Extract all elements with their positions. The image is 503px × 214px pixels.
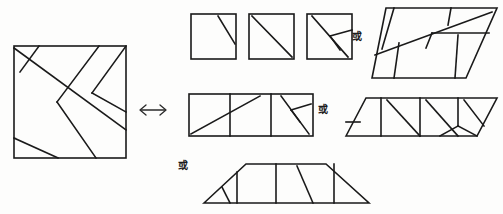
small-square-1 <box>191 14 236 59</box>
or-label-top: 或 <box>352 32 362 42</box>
dissected-square <box>14 46 126 158</box>
dissected-trapezoid <box>204 164 369 203</box>
equivalence-arrow-icon <box>140 105 166 115</box>
small-square-3 <box>307 14 352 59</box>
dissected-slanted-band <box>346 98 497 136</box>
or-label-bottom: 或 <box>178 161 188 171</box>
diagram-canvas <box>0 0 503 214</box>
dissected-parallelogram <box>372 8 497 78</box>
or-label-middle: 或 <box>318 105 328 115</box>
small-square-2 <box>249 14 294 59</box>
dissected-rectangle <box>189 94 313 136</box>
dissection-diagram-page: 或 或 或 <box>0 0 503 214</box>
